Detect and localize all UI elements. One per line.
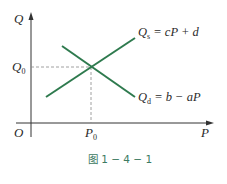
- supply-equation: Qs = cP + d: [138, 26, 199, 41]
- q0-letter: Q: [12, 59, 21, 74]
- p0-label: P0: [85, 126, 97, 142]
- demand-equation: Qd = b − aP: [138, 91, 201, 106]
- demand-rhs: = b − aP: [154, 90, 200, 104]
- supply-subscript: s: [147, 32, 150, 41]
- supply-rhs: = cP + d: [153, 25, 198, 39]
- demand-curve: [62, 46, 135, 97]
- q0-subscript: 0: [21, 67, 25, 76]
- p0-subscript: 0: [93, 133, 97, 142]
- demand-q: Q: [138, 90, 147, 104]
- p0-letter: P: [85, 125, 93, 140]
- demand-subscript: d: [147, 97, 151, 106]
- x-axis-label: P: [201, 126, 209, 139]
- y-axis-label: Q: [14, 12, 23, 25]
- y-axis-arrow-icon: [29, 12, 34, 20]
- origin-label: O: [14, 126, 23, 139]
- q0-label: Q0: [12, 60, 25, 76]
- supply-q: Q: [138, 25, 147, 39]
- figure-caption: 图 1 − 4 − 1: [0, 151, 227, 166]
